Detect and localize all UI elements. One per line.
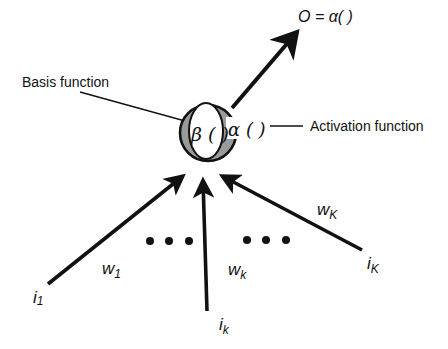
input-line-K xyxy=(222,176,362,250)
neuron-diagram: O = α( ) β ( ) α ( ) Basis function Acti… xyxy=(0,0,448,349)
weight-k-label: wk xyxy=(228,260,247,282)
input-k-label: ik xyxy=(219,315,230,337)
activation-symbol: α ( ) xyxy=(228,119,266,140)
activation-callout-label: Activation function xyxy=(310,118,424,134)
ellipsis-left xyxy=(146,237,193,245)
weight-1-label: w1 xyxy=(102,259,121,281)
input-1-label: i1 xyxy=(33,288,43,308)
basis-symbol: β ( ) xyxy=(190,123,229,145)
input-line-k xyxy=(203,180,207,311)
ellipsis-right xyxy=(243,236,290,244)
weight-K-label: wK xyxy=(317,200,338,222)
output-arrow xyxy=(232,32,297,108)
output-label: O = α( ) xyxy=(298,8,353,25)
basis-callout-line xyxy=(80,92,196,124)
input-K-label: iK xyxy=(367,254,380,276)
basis-callout-label: Basis function xyxy=(22,74,109,90)
